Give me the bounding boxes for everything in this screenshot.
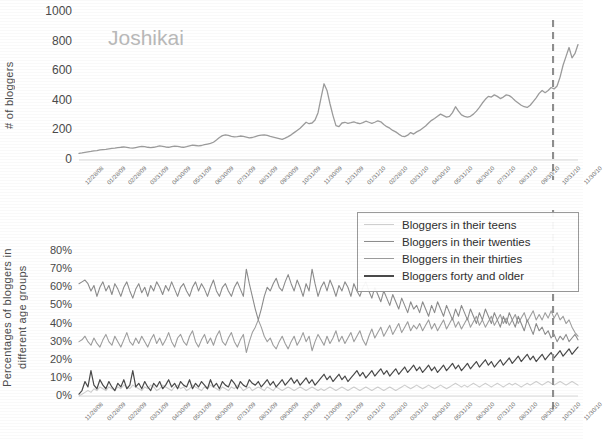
x-tick-label: 11/30/10 xyxy=(583,401,603,421)
legend-color-swatch xyxy=(364,258,394,259)
legend-label: Bloggers in their twenties xyxy=(402,236,530,248)
x-tick-label: 11/30/10 xyxy=(583,165,603,185)
legend-color-swatch xyxy=(364,241,394,242)
legend-item: Bloggers in their twenties xyxy=(364,233,571,250)
legend-color-swatch xyxy=(364,275,394,277)
legend-item: Bloggers in their thirties xyxy=(364,250,571,267)
legend-label: Bloggers forty and older xyxy=(402,270,524,282)
legend-item: Bloggers in their teens xyxy=(364,216,571,233)
top-chart-panel: # of bloggers 10008006004002000 Joshikai… xyxy=(0,0,583,200)
legend-label: Bloggers in their teens xyxy=(402,219,516,231)
bottom-chart-panel: Percentages of bloggers in different age… xyxy=(0,200,583,439)
legend-label: Bloggers in their thirties xyxy=(402,253,522,265)
bottom-chart-legend: Bloggers in their teensBloggers in their… xyxy=(357,212,579,292)
legend-color-swatch xyxy=(364,224,394,225)
legend-item: Bloggers forty and older xyxy=(364,267,571,284)
